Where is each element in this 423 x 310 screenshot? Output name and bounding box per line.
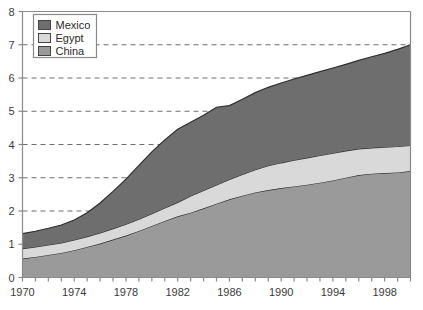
- y-tick-label-6: 6: [8, 72, 14, 84]
- x-tick-label-1998: 1998: [372, 286, 396, 298]
- legend-swatch-mexico: [39, 21, 51, 30]
- legend-label-mexico: Mexico: [56, 19, 91, 31]
- x-tick-label-1982: 1982: [165, 286, 189, 298]
- legend-label-egypt: Egypt: [56, 32, 84, 44]
- y-tick-label-5: 5: [8, 105, 14, 117]
- x-tick-label-1994: 1994: [321, 286, 345, 298]
- y-tick-label-3: 3: [8, 172, 14, 184]
- chart-container: 0123456781970197419781982198619901994199…: [0, 0, 423, 310]
- x-tick-label-1974: 1974: [62, 286, 86, 298]
- x-tick-label-1986: 1986: [217, 286, 241, 298]
- legend-label-china: China: [56, 45, 86, 57]
- y-tick-label-7: 7: [8, 39, 14, 51]
- y-tick-label-0: 0: [8, 272, 14, 284]
- x-tick-label-1978: 1978: [114, 286, 138, 298]
- x-tick-label-1970: 1970: [10, 286, 34, 298]
- legend-swatch-egypt: [39, 34, 51, 43]
- y-tick-label-1: 1: [8, 238, 14, 250]
- stacked-area-chart: 0123456781970197419781982198619901994199…: [0, 0, 423, 310]
- y-tick-label-8: 8: [8, 6, 14, 18]
- x-tick-label-1990: 1990: [269, 286, 293, 298]
- y-tick-label-4: 4: [8, 139, 14, 151]
- y-tick-label-2: 2: [8, 205, 14, 217]
- legend-swatch-china: [39, 47, 51, 56]
